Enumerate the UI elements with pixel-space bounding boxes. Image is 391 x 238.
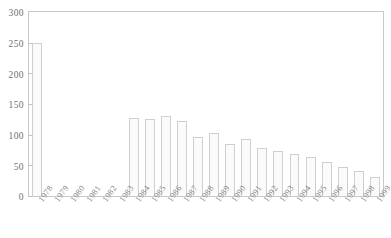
y-axis-tick: 300 (9, 6, 28, 18)
x-axis: 1978197919801981198219831984198519861987… (29, 198, 383, 238)
y-axis-tick-label: 150 (9, 99, 28, 111)
y-axis-tick: 150 (9, 98, 28, 110)
y-axis-tick-label: 0 (19, 191, 28, 203)
bar-chart: 050100150200250300 197819791980198119821… (0, 0, 391, 238)
bar (161, 116, 171, 196)
y-axis-tick-mark (28, 196, 32, 197)
y-axis-tick-label: 100 (9, 130, 28, 142)
bars-layer (29, 12, 383, 196)
y-axis-tick-label: 300 (9, 7, 28, 19)
y-axis-tick: 0 (19, 190, 28, 202)
y-axis-tick-label: 250 (9, 38, 28, 50)
y-axis-tick: 100 (9, 129, 28, 141)
y-axis-tick: 200 (9, 67, 28, 79)
y-axis-tick-label: 50 (14, 161, 28, 173)
y-axis-tick: 250 (9, 37, 28, 49)
y-axis-tick: 50 (14, 159, 28, 171)
y-axis-tick-label: 200 (9, 69, 28, 81)
bar (32, 43, 42, 196)
y-axis: 050100150200250300 (0, 0, 28, 238)
